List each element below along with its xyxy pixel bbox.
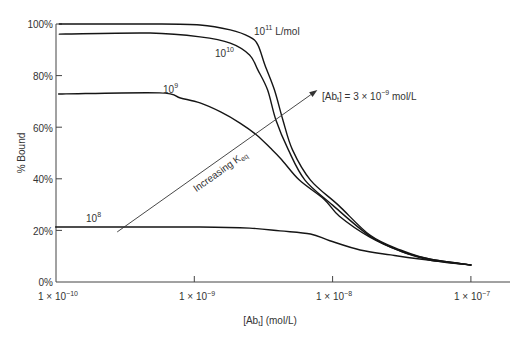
y-axis-title: % Bound — [16, 133, 27, 174]
binding-curve-chart: 0% 20% 40% 60% 80% 100% % Bound 1 × 10−1… — [0, 0, 523, 342]
y-tick-label-20: 20% — [33, 226, 53, 237]
series-label-1e8: 108 — [86, 211, 101, 224]
increasing-keq-arrow — [117, 90, 317, 232]
x-tick-label-1e-10: 1 × 10−10 — [38, 290, 78, 302]
abt-annotation: [Abt] = 3 × 10−9 mol/L — [322, 89, 417, 103]
curve-keq-1000000000 — [59, 93, 471, 265]
y-tick-label-40: 40% — [33, 174, 53, 185]
x-axis-title: [Abt] (mol/L) — [243, 315, 297, 327]
series-label-1e10: 1010 — [215, 46, 234, 59]
x-tick-label-1e-9: 1 × 10−9 — [179, 290, 215, 302]
curve-keq-10000000000 — [59, 33, 471, 265]
curve-keq-100000000 — [56, 227, 471, 265]
series-label-1e9: 109 — [163, 82, 178, 95]
axes — [56, 24, 510, 282]
y-tick-label-80: 80% — [33, 71, 53, 82]
y-tick-label-0: 0% — [39, 277, 54, 288]
arrowhead-icon — [309, 90, 317, 97]
series-curves — [56, 24, 471, 265]
y-tick-label-60: 60% — [33, 123, 53, 134]
x-tick-label-1e-8: 1 × 10−8 — [316, 290, 352, 302]
x-tick-label-1e-7: 1 × 10−7 — [454, 290, 490, 302]
arrow-shaft — [117, 95, 311, 232]
y-tick-label-100: 100% — [27, 19, 53, 30]
series-label-1e11: 1011 L/mol — [254, 24, 300, 37]
increasing-keq-label: Increasing Keq — [191, 148, 250, 195]
